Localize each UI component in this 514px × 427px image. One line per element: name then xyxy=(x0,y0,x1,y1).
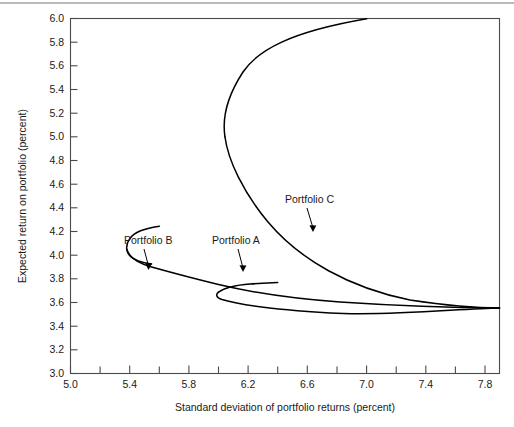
x-tick-label: 5.4 xyxy=(122,378,137,390)
annotation-portfolio-a: Portfolio A xyxy=(212,234,260,246)
y-axis-title: Expected return on portfolio (percent) xyxy=(16,109,28,283)
annotation-portfolio-a-arrow xyxy=(238,249,246,272)
annotation-portfolio-c: Portfolio C xyxy=(285,193,334,205)
y-tick-label: 3.8 xyxy=(49,272,64,284)
x-axis: 5.0 5.4 5.8 6.2 6.6 7.0 7.4 7.8 xyxy=(63,366,492,391)
scan-artifact-line xyxy=(0,2,514,4)
y-tick-label: 5.4 xyxy=(49,83,64,95)
chart-figure: 3.0 3.2 3.4 3.6 3.8 4.0 4.2 4.4 4.6 4.8 … xyxy=(0,0,514,427)
x-tick-label: 5.0 xyxy=(63,378,78,390)
y-tick-label: 3.4 xyxy=(49,320,64,332)
portfolio-c-upper-branch xyxy=(224,19,366,137)
x-tick-label: 7.4 xyxy=(418,378,433,390)
annotation-portfolio-b: Portfolio B xyxy=(124,234,172,246)
portfolio-a-label: Portfolio A xyxy=(212,234,260,246)
y-tick-label: 3.0 xyxy=(49,367,64,379)
x-minor-tick-group xyxy=(100,367,455,374)
x-tick-label: 5.8 xyxy=(182,378,197,390)
x-tick-label: 7.8 xyxy=(478,378,493,390)
x-tick-label: 6.2 xyxy=(241,378,256,390)
portfolio-c-label: Portfolio C xyxy=(285,193,334,205)
y-tick-label: 4.8 xyxy=(49,154,64,166)
y-tick-label: 4.0 xyxy=(49,249,64,261)
x-axis-title: Standard deviation of portfolio returns … xyxy=(175,401,395,413)
y-tick-label: 5.2 xyxy=(49,107,64,119)
y-tick-label: 6.0 xyxy=(49,12,64,24)
y-tick-label: 4.4 xyxy=(49,201,64,213)
x-tick-label: 6.6 xyxy=(300,378,315,390)
y-tick-label: 5.0 xyxy=(49,130,64,142)
portfolio-b-lower-branch xyxy=(127,249,500,308)
y-tick-group xyxy=(71,19,78,374)
x-tick-label: 7.0 xyxy=(359,378,374,390)
y-tick-label: 3.6 xyxy=(49,296,64,308)
portfolio-b-label: Portfolio B xyxy=(124,234,172,246)
y-tick-label: 3.2 xyxy=(49,343,64,355)
y-tick-label: 4.6 xyxy=(49,178,64,190)
y-tick-label: 5.8 xyxy=(49,36,64,48)
y-tick-label: 5.6 xyxy=(49,59,64,71)
arrow-head-icon xyxy=(309,225,316,232)
arrow-head-icon xyxy=(240,265,247,272)
y-axis: 3.0 3.2 3.4 3.6 3.8 4.0 4.2 4.4 4.6 4.8 … xyxy=(49,12,77,379)
y-tick-label: 4.2 xyxy=(49,225,64,237)
annotation-portfolio-c-arrow xyxy=(307,208,316,232)
portfolio-frontier-chart: 3.0 3.2 3.4 3.6 3.8 4.0 4.2 4.4 4.6 4.8 … xyxy=(0,0,514,427)
